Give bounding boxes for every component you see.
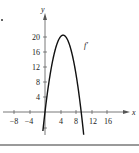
- x-tick-label: −8: [10, 117, 19, 126]
- x-tick-label: 8: [74, 117, 78, 126]
- y-axis-label: y: [40, 5, 45, 14]
- curve-label: f′: [84, 41, 88, 50]
- x-tick-label: −4: [25, 117, 34, 126]
- chart: x y −8 −4 4 8 12 16 4 8 12 16 20 f′: [0, 0, 139, 153]
- y-tick-label: 4: [36, 93, 40, 102]
- bottom-rule: [0, 144, 139, 146]
- x-tick-label: 12: [89, 117, 97, 126]
- y-tick-label: 12: [32, 63, 40, 72]
- x-axis-label: x: [131, 108, 136, 117]
- y-tick-label: 8: [36, 78, 40, 87]
- x-tick-label: 4: [59, 117, 63, 126]
- x-axis-arrow-icon: [123, 110, 130, 114]
- y-tick-label: 20: [32, 33, 40, 42]
- y-tick-label: 16: [32, 48, 40, 57]
- x-tick-label: 16: [104, 117, 112, 126]
- y-axis-arrow-icon: [43, 13, 47, 20]
